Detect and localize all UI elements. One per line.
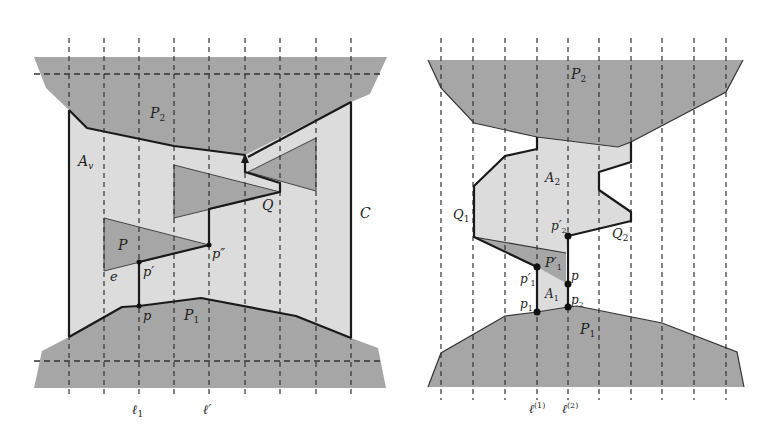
obstacle-p1-right	[428, 306, 744, 387]
label-q1: Q1	[453, 207, 469, 224]
label-q: Q	[262, 197, 274, 213]
label-l-prime: ℓ′	[203, 402, 211, 417]
label-p-double-prime: p″	[212, 246, 225, 261]
right-panel: P2 A2 Q1 Q2 p′2 P′1 p p′1 A1 p1 p2 P1 ℓ(…	[428, 38, 744, 416]
label-triangle-p: P	[117, 237, 128, 253]
geometry-figure: P2 Av P Q C e p′ p″ p P1 ℓ1 ℓ′	[0, 0, 774, 442]
label-l-2: ℓ(2)	[562, 401, 578, 416]
left-panel: P2 Av P Q C e p′ p″ p P1 ℓ1 ℓ′	[34, 38, 387, 419]
point-p	[137, 304, 142, 309]
point-p-prime	[137, 260, 142, 265]
label-p2-point: p2	[571, 293, 584, 309]
label-p1-point: p1	[520, 297, 533, 313]
label-q2: Q2	[612, 226, 628, 243]
label-e: e	[110, 269, 118, 284]
label-c: C	[360, 205, 371, 221]
label-p-right: p	[571, 269, 579, 283]
label-l1: ℓ1	[132, 402, 143, 419]
label-l-1: ℓ(1)	[529, 401, 545, 416]
label-p-prime: p′	[143, 264, 154, 279]
point-p-double-prime	[207, 243, 212, 248]
label-p1-prime: p′1	[520, 272, 536, 288]
point-p1	[534, 309, 541, 316]
label-p: p	[143, 308, 152, 323]
point-p1-prime	[534, 264, 541, 271]
